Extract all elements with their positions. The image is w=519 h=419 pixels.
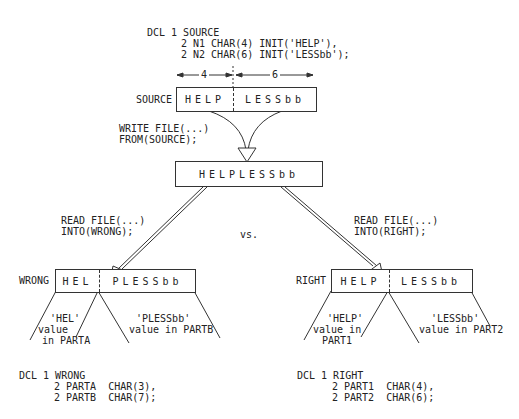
vs-label: vs. (240, 229, 258, 240)
wrong-partb-annot-2: value in PARTB (129, 324, 213, 335)
read-wrong-line2: INTO(WRONG); (61, 226, 133, 237)
file-record-box: HELPLESSbb (175, 161, 323, 187)
source-box-label: SOURCE (136, 94, 172, 105)
right-part1-annot-1: 'HELP' (327, 313, 363, 324)
wrong-field-partb: PLESSbb (100, 270, 195, 292)
dimension-label-6: 6 (270, 69, 280, 80)
source-field-n2: LESSbb (234, 88, 316, 111)
right-part1-annot-2: value in (313, 324, 361, 335)
read-right-line2: INTO(RIGHT); (354, 226, 426, 237)
right-field-part1: HELP (332, 270, 389, 292)
right-part2-annot-1: 'LESSbb' (431, 313, 479, 324)
wrong-decl-line3: 2 PARTB CHAR(7); (54, 392, 156, 403)
diagram-connectors (0, 0, 519, 419)
wrong-parta-annot-1: 'HEL' (50, 313, 80, 324)
source-decl-line3: 2 N2 CHAR(6) INIT('LESSbb'); (181, 49, 350, 60)
read-right-line1: READ FILE(...) (354, 215, 438, 226)
right-field-part2: LESSbb (390, 270, 472, 292)
right-part2-annot-2: value in PART2 (419, 324, 503, 335)
write-stmt-line2: FROM(SOURCE); (119, 134, 197, 145)
merge-curve-right (248, 111, 282, 150)
merge-arrowhead (238, 148, 256, 162)
right-part1-annot-3: PART1 (322, 335, 352, 346)
wrong-decl-line2: 2 PARTA CHAR(3), (54, 381, 156, 392)
wrong-parta-annot-3: in PARTA (42, 335, 90, 346)
wrong-record-box: HEL PLESSbb (55, 269, 196, 293)
right-decl-line1: DCL 1 RIGHT (297, 370, 363, 381)
right-record-box: HELP LESSbb (331, 269, 473, 293)
merge-curve-left (209, 111, 246, 150)
source-record-box: HELP LESSbb (176, 87, 317, 112)
source-decl-line1: DCL 1 SOURCE (147, 27, 219, 38)
wrong-parta-annot-2: value (38, 324, 68, 335)
right-decl-line2: 2 PART1 CHAR(4), (332, 381, 434, 392)
wrong-field-parta: HEL (56, 270, 99, 292)
source-field-n1: HELP (177, 88, 233, 111)
file-record-value: HELPLESSbb (176, 162, 322, 186)
wrong-decl-line1: DCL 1 WRONG (19, 370, 85, 381)
dimension-label-4: 4 (199, 69, 209, 80)
wrong-partb-annot-1: 'PLESSbb' (136, 313, 190, 324)
right-decl-line3: 2 PART2 CHAR(6); (332, 392, 434, 403)
write-stmt-line1: WRITE FILE(...) (119, 123, 209, 134)
source-decl-line2: 2 N1 CHAR(4) INIT('HELP'), (181, 38, 338, 49)
wrong-box-label: WRONG (19, 275, 49, 286)
read-wrong-line1: READ FILE(...) (61, 215, 145, 226)
right-box-label: RIGHT (296, 275, 326, 286)
